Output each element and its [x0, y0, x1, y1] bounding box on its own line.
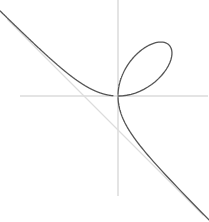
plot-background — [0, 0, 209, 222]
plot-figure — [0, 0, 209, 222]
folium-of-descartes-chart — [0, 0, 209, 222]
